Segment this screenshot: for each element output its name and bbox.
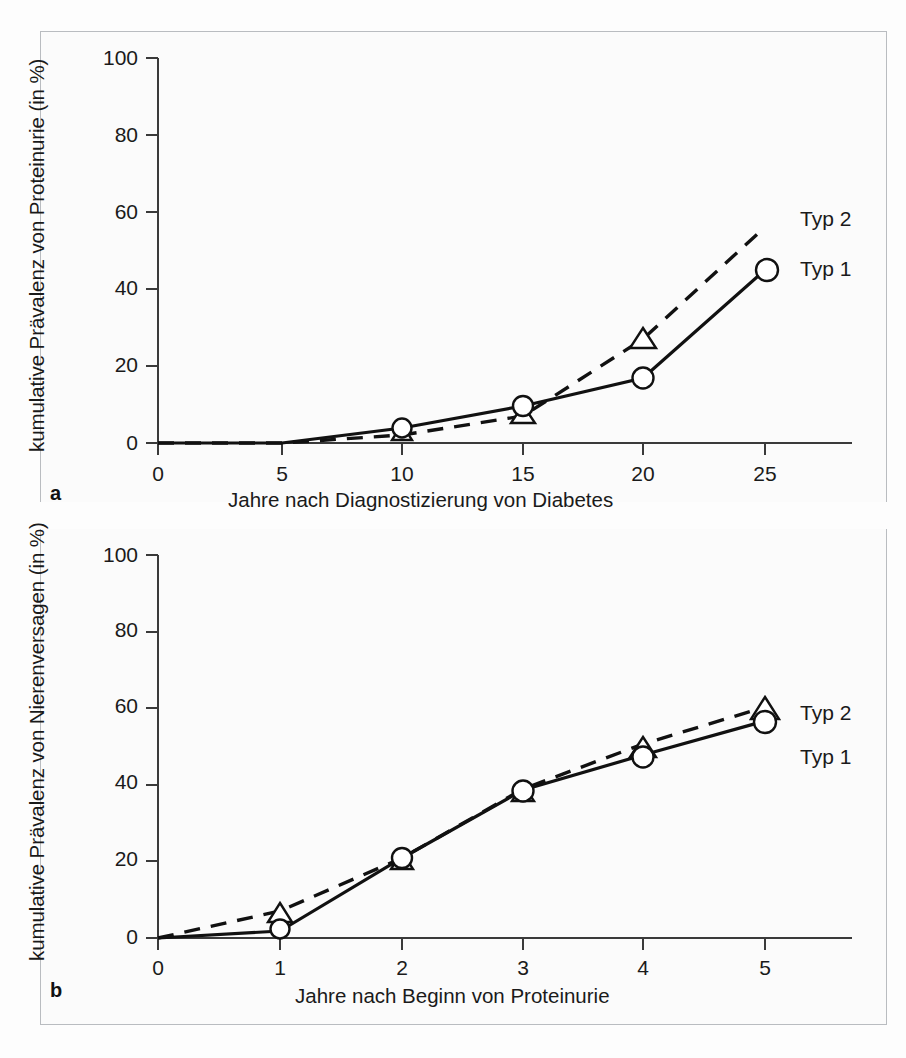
panel-a-series-typ1-line [158, 270, 765, 443]
panel-b-marker-circle [271, 920, 290, 939]
panel-a-plot [0, 0, 906, 529]
panel-a: kumulative Prävalenz von Proteinurie (in… [0, 0, 906, 529]
panel-a-marker-circle [756, 259, 778, 281]
panel-a-marker-circle [393, 419, 412, 438]
panel-b-marker-circle [392, 848, 412, 868]
panel-a-marker-circle [513, 396, 533, 416]
panel-a-series-typ2-line [158, 227, 765, 443]
panel-b-series-typ2-line [158, 707, 765, 938]
panel-b-series-typ1-line [158, 721, 765, 938]
panel-a-marker-circle [633, 368, 654, 389]
panel-b: kumulative Prävalenz von Nierenversagen … [0, 529, 906, 1058]
panel-b-marker-circle [513, 781, 534, 802]
panel-b-marker-circle [754, 711, 776, 733]
figure-container: kumulative Prävalenz von Proteinurie (in… [0, 0, 906, 1058]
panel-b-marker-circle [633, 747, 654, 768]
panel-b-plot [0, 529, 906, 1058]
